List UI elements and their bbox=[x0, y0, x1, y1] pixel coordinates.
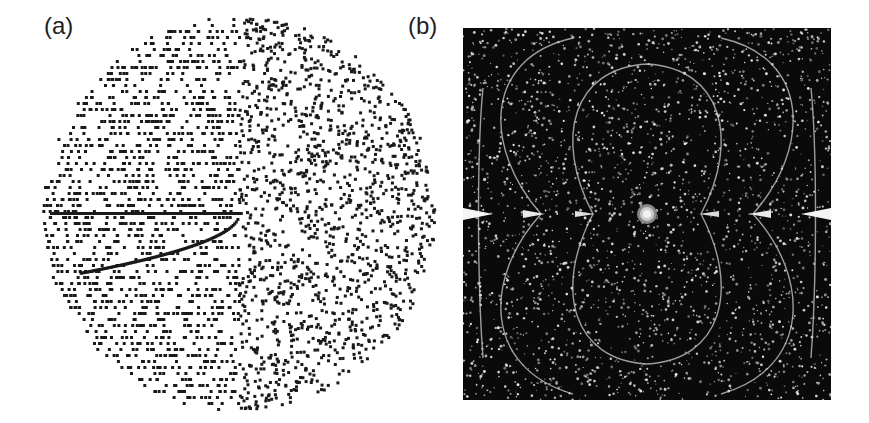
field-lines-graphic bbox=[463, 28, 831, 400]
panel-a-dot-disc bbox=[30, 0, 450, 423]
dot-disc-graphic bbox=[30, 0, 450, 423]
panel-b-field-image bbox=[463, 28, 831, 400]
